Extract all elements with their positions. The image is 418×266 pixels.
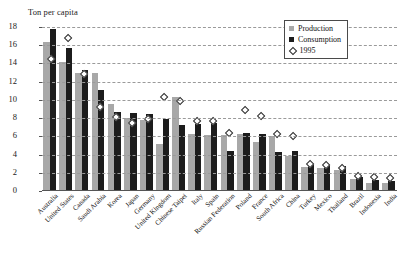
gridline: [42, 136, 397, 137]
y-axis-tick-mark: [39, 118, 42, 119]
y-axis-tick-mark: [39, 155, 42, 156]
marker-1995[interactable]: [257, 112, 266, 121]
x-axis-label: Korea: [106, 192, 124, 210]
bar-group: [58, 27, 74, 191]
legend-label-consumption: Consumption: [298, 35, 341, 44]
x-axis-label: Poland: [234, 192, 253, 211]
bar-consumption[interactable]: [211, 123, 217, 191]
bar-consumption[interactable]: [66, 48, 72, 191]
bar-consumption[interactable]: [146, 114, 152, 191]
y-axis-tick-label: 10: [0, 94, 17, 104]
bar-group: [107, 27, 123, 191]
bar-consumption[interactable]: [227, 151, 233, 191]
y-axis-tick-label: 16: [0, 39, 17, 49]
y-axis-tick-label: 0: [0, 185, 17, 195]
y-axis-tick-label: 8: [0, 112, 17, 122]
chart-container: Ton per capita 024681012141618 Australia…: [0, 0, 418, 266]
y-axis-tick-mark: [39, 82, 42, 83]
gridline: [42, 155, 397, 156]
bar-group: [203, 27, 219, 191]
bar-consumption[interactable]: [243, 133, 249, 191]
chart-title: Ton per capita: [28, 7, 78, 17]
y-axis-tick-mark: [39, 100, 42, 101]
bar-group: [139, 27, 155, 191]
bar-consumption[interactable]: [259, 134, 265, 191]
bar-group: [123, 27, 139, 191]
gridline: [42, 118, 397, 119]
gridline: [42, 173, 397, 174]
gridline: [42, 100, 397, 101]
bar-group: [155, 27, 171, 191]
y-axis-tick-mark: [39, 45, 42, 46]
bar-consumption[interactable]: [275, 152, 281, 191]
bar-group: [268, 27, 284, 191]
y-axis-tick-label: 2: [0, 167, 17, 177]
y-axis-tick-mark: [39, 173, 42, 174]
y-axis-tick-label: 14: [0, 57, 17, 67]
y-axis-tick-mark: [39, 27, 42, 28]
y-axis-tick-label: 18: [0, 21, 17, 31]
y-axis-tick-label: 4: [0, 149, 17, 159]
legend-item-production: Production: [289, 23, 341, 34]
y-axis-tick-label: 12: [0, 76, 17, 86]
bar-group: [74, 27, 90, 191]
x-axis-label: India: [383, 192, 399, 208]
legend-label-1995: 1995: [300, 46, 316, 55]
bar-group: [220, 27, 236, 191]
gridline: [42, 82, 397, 83]
bar-consumption[interactable]: [195, 124, 201, 191]
diamond-marker-icon: [288, 46, 296, 54]
marker-1995[interactable]: [241, 106, 250, 115]
y-axis-tick-mark: [39, 136, 42, 137]
bar-consumption[interactable]: [114, 112, 120, 191]
legend-item-consumption: Consumption: [289, 34, 341, 45]
bar-group: [349, 27, 365, 191]
bar-group: [90, 27, 106, 191]
marker-1995[interactable]: [63, 34, 72, 43]
bar-group: [381, 27, 397, 191]
bar-group: [365, 27, 381, 191]
x-axis-label: Italy: [190, 192, 205, 207]
chart-legend: Production Consumption 1995: [284, 20, 348, 59]
bar-consumption[interactable]: [50, 29, 56, 191]
gridline: [42, 63, 397, 64]
bar-consumption[interactable]: [179, 125, 185, 192]
bar-group: [236, 27, 252, 191]
bar-group: [171, 27, 187, 191]
x-axis-category-labels: AustraliaUnited StatesCanadaSaudi Arabia…: [42, 192, 397, 266]
y-axis-tick-mark: [39, 63, 42, 64]
bar-group: [252, 27, 268, 191]
y-axis-tick-label: 6: [0, 130, 17, 140]
legend-item-1995: 1995: [289, 45, 341, 56]
bar-group: [187, 27, 203, 191]
production-swatch-icon: [289, 26, 294, 31]
consumption-swatch-icon: [289, 37, 294, 42]
bar-consumption[interactable]: [292, 151, 298, 191]
bar-group: [42, 27, 58, 191]
legend-label-production: Production: [298, 24, 333, 33]
